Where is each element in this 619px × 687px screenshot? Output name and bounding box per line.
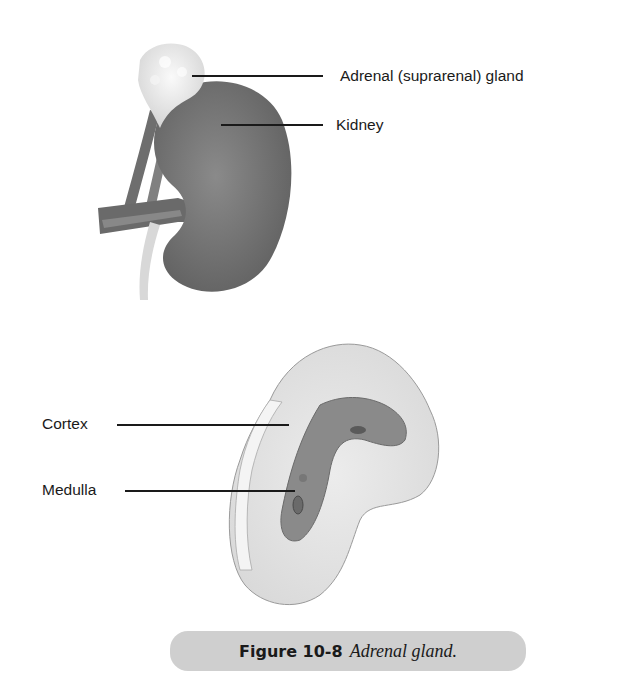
kidney-label: Kidney: [336, 117, 383, 133]
figure-caption-text: Adrenal gland.: [350, 641, 457, 662]
figure-caption: Figure 10-8 Adrenal gland.: [170, 631, 526, 671]
kidney-illustration: [98, 44, 291, 300]
anatomy-illustration: [0, 0, 619, 687]
cortex-leader-line: [117, 424, 289, 426]
medulla-label: Medulla: [42, 482, 96, 498]
medulla-leader-line: [125, 490, 295, 492]
adrenal-label: Adrenal (suprarenal) gland: [340, 68, 524, 84]
kidney-leader-line: [221, 124, 323, 126]
cortex-label: Cortex: [42, 416, 88, 432]
adrenal-leader-line: [192, 75, 323, 77]
figure-number: Figure 10-8: [239, 642, 343, 661]
adrenal-cross-section-illustration: [229, 344, 438, 605]
